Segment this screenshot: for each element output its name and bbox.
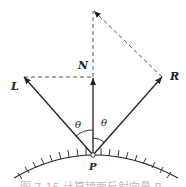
reflection-diagram: L N R P θ θ 图 7-15 计算镜面反射向量 R bbox=[0, 0, 186, 187]
label-theta-right: θ bbox=[101, 117, 107, 128]
label-l: L bbox=[10, 80, 19, 93]
label-p: P bbox=[88, 161, 97, 172]
angle-arc-left bbox=[76, 130, 93, 136]
dashed-r-to-top bbox=[94, 11, 162, 77]
label-theta-left: θ bbox=[75, 119, 81, 130]
point-p bbox=[91, 153, 95, 157]
figure-caption: 图 7-15 计算镜面反射向量 R bbox=[20, 180, 162, 187]
vector-r bbox=[93, 77, 162, 155]
vector-l bbox=[24, 77, 93, 155]
angle-arc-right bbox=[93, 138, 104, 142]
label-r: R bbox=[169, 70, 179, 83]
label-n: N bbox=[77, 59, 89, 72]
